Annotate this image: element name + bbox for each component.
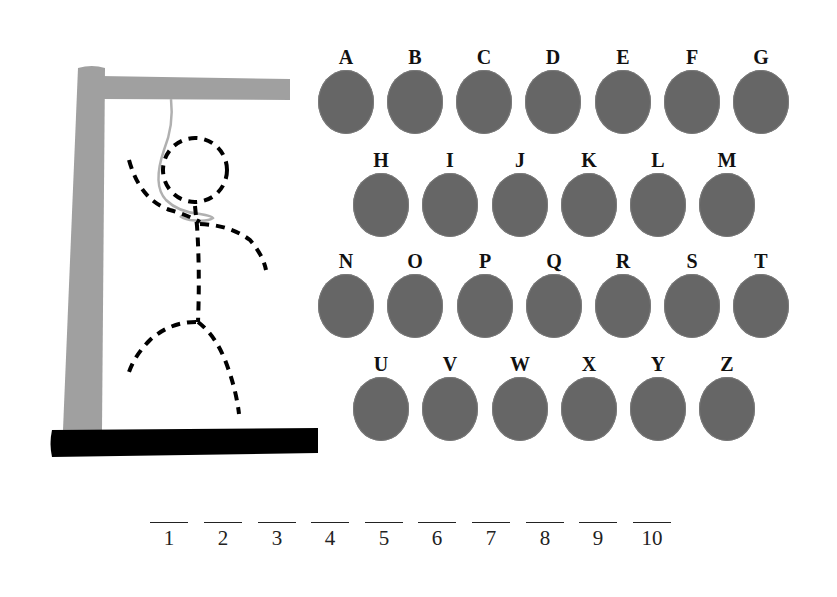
letter-label: Q [526,250,582,272]
letter-disc[interactable] [492,377,548,441]
letter-button-i[interactable]: I [422,149,478,237]
letter-label: K [561,149,617,171]
letter-disc[interactable] [422,173,478,237]
letter-button-d[interactable]: D [525,46,581,134]
letter-disc[interactable] [456,70,512,134]
letter-disc[interactable] [630,377,686,441]
slot-number: 9 [579,527,617,549]
gallows [51,66,319,457]
slot-number: 2 [204,527,242,549]
letter-disc[interactable] [561,377,617,441]
letter-button-l[interactable]: L [630,149,686,237]
slot-number: 8 [526,527,564,549]
blank-line [204,522,242,523]
letter-label: J [492,149,548,171]
letter-label: X [561,353,617,375]
letter-label: U [353,353,409,375]
blank-line [633,522,671,523]
letter-button-j[interactable]: J [492,149,548,237]
figure-right-arm [200,224,266,270]
letter-button-p[interactable]: P [457,250,513,338]
letter-disc[interactable] [353,173,409,237]
letter-label: W [492,353,548,375]
letter-button-h[interactable]: H [353,149,409,237]
letter-button-z[interactable]: Z [699,353,755,441]
letter-label: V [422,353,478,375]
letter-button-f[interactable]: F [664,46,720,134]
letter-disc[interactable] [664,274,720,338]
letter-disc[interactable] [318,70,374,134]
gallows-post [63,66,105,430]
letter-button-r[interactable]: R [595,250,651,338]
letter-disc[interactable] [699,173,755,237]
slot-number: 3 [258,527,296,549]
letter-button-a[interactable]: A [318,46,374,134]
letter-button-g[interactable]: G [733,46,789,134]
letter-label: F [664,46,720,68]
letter-disc[interactable] [595,70,651,134]
letter-disc[interactable] [318,274,374,338]
figure-right-leg [198,322,239,414]
letter-label: O [387,250,443,272]
letter-disc[interactable] [492,173,548,237]
letter-label: R [595,250,651,272]
letter-disc[interactable] [387,274,443,338]
blank-line [150,522,188,523]
letter-label: N [318,250,374,272]
word-slot-9: 9 [579,522,617,549]
letter-label: M [699,149,755,171]
letter-disc[interactable] [561,173,617,237]
letter-button-t[interactable]: T [733,250,789,338]
letter-label: D [525,46,581,68]
letter-disc[interactable] [353,377,409,441]
word-slot-2: 2 [204,522,242,549]
slot-number: 10 [633,527,671,549]
word-slot-7: 7 [472,522,510,549]
letter-button-n[interactable]: N [318,250,374,338]
letter-button-b[interactable]: B [387,46,443,134]
letter-disc[interactable] [526,274,582,338]
letter-disc[interactable] [457,274,513,338]
blank-line [579,522,617,523]
blank-line [418,522,456,523]
letter-disc[interactable] [387,70,443,134]
word-slot-3: 3 [258,522,296,549]
letter-button-s[interactable]: S [664,250,720,338]
letter-label: C [456,46,512,68]
letter-disc[interactable] [733,274,789,338]
blank-line [526,522,564,523]
letter-label: Y [630,353,686,375]
letter-button-m[interactable]: M [699,149,755,237]
word-slot-5: 5 [365,522,403,549]
figure-left-leg [129,322,196,372]
figure-head [163,138,227,202]
letter-disc[interactable] [630,173,686,237]
letter-button-u[interactable]: U [353,353,409,441]
letter-button-e[interactable]: E [595,46,651,134]
letter-disc[interactable] [699,377,755,441]
letter-disc[interactable] [733,70,789,134]
letter-button-k[interactable]: K [561,149,617,237]
letter-disc[interactable] [595,274,651,338]
letter-label: G [733,46,789,68]
letter-disc[interactable] [422,377,478,441]
word-slot-10: 10 [633,522,671,549]
stick-figure [129,138,266,414]
letter-button-y[interactable]: Y [630,353,686,441]
letter-button-q[interactable]: Q [526,250,582,338]
letter-button-c[interactable]: C [456,46,512,134]
letter-label: A [318,46,374,68]
slot-number: 6 [418,527,456,549]
letter-button-v[interactable]: V [422,353,478,441]
letter-button-x[interactable]: X [561,353,617,441]
letter-button-o[interactable]: O [387,250,443,338]
blank-line [365,522,403,523]
letter-disc[interactable] [664,70,720,134]
gallows-beam [100,76,290,100]
letter-disc[interactable] [525,70,581,134]
figure-body [195,206,199,322]
letter-label: L [630,149,686,171]
word-slot-8: 8 [526,522,564,549]
letter-button-w[interactable]: W [492,353,548,441]
letter-label: B [387,46,443,68]
